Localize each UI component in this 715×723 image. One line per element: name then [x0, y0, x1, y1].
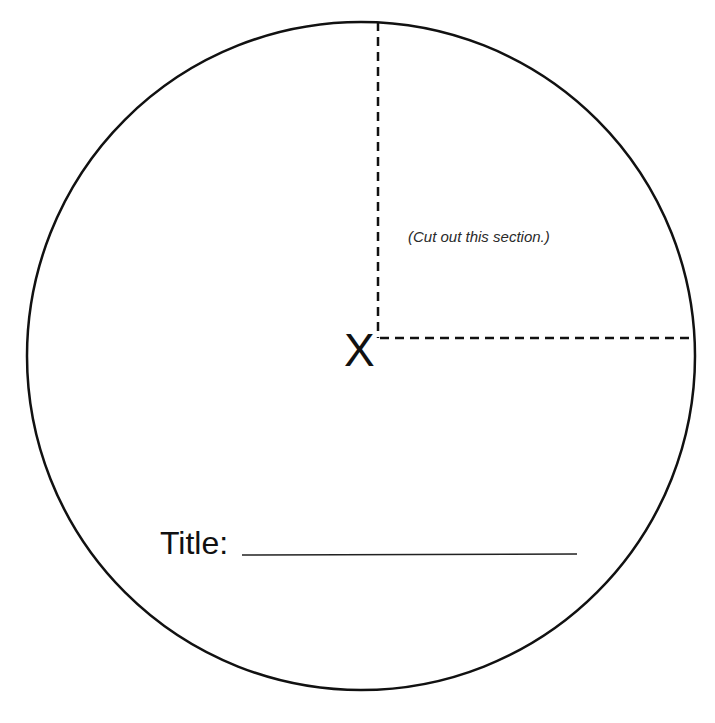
center-x-mark: X — [344, 327, 375, 373]
cutout-template: (Cut out this section.) X Title: — [0, 0, 715, 723]
title-underline — [242, 554, 577, 555]
title-label: Title: — [160, 525, 228, 561]
cut-instruction: (Cut out this section.) — [408, 228, 550, 245]
